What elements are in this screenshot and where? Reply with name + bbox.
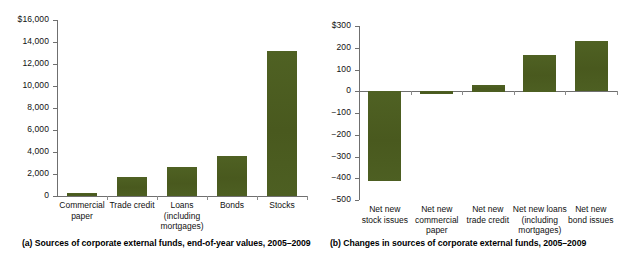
panel-b-y-tick	[355, 91, 359, 92]
panel-b-bar[interactable]	[368, 91, 401, 181]
panel-a-caption: (a) Sources of corporate external funds,…	[22, 238, 311, 249]
panel-a-y-tick-label: 8,000	[0, 103, 49, 112]
panel-a-y-tick-label: 4,000	[0, 147, 49, 156]
panel-a-y-tick	[53, 196, 57, 197]
panel-b-bar[interactable]	[523, 55, 556, 92]
panel-b-y-tick-label: $300	[301, 21, 351, 30]
panel-b-y-axis	[359, 26, 360, 200]
panel-b-y-tick-label: −100	[301, 108, 351, 117]
panel-b-y-tick	[355, 135, 359, 136]
panel-a-bar[interactable]	[117, 177, 147, 196]
panel-b-y-tick-label: −200	[301, 130, 351, 139]
panel-b-y-tick	[355, 48, 359, 49]
panel-b-bar[interactable]	[472, 85, 505, 92]
panel-a-y-tick	[53, 64, 57, 65]
panel-a-y-tick	[53, 42, 57, 43]
panel-b-y-tick	[355, 200, 359, 201]
panel-a-y-tick-label: 6,000	[0, 125, 49, 134]
panel-b-bar[interactable]	[575, 41, 608, 91]
panel-b-y-tick	[355, 178, 359, 179]
panel-a-y-tick	[53, 174, 57, 175]
panel-b-x-tick	[514, 91, 515, 95]
panel-b-y-tick-label: −500	[301, 195, 351, 204]
panel-a-y-tick-label: 10,000	[0, 81, 49, 90]
panel-a-y-tick	[53, 152, 57, 153]
panel-b-y-tick-label: −300	[301, 152, 351, 161]
panel-b-x-tick	[411, 91, 412, 95]
panel-b-category-label: Net newtrade credit	[458, 204, 518, 225]
panel-a-y-tick	[53, 86, 57, 87]
panel-b-y-tick	[355, 26, 359, 27]
panel-b-y-tick-label: 0	[301, 86, 351, 95]
panel-a-y-tick	[53, 130, 57, 131]
panel-b-x-tick	[565, 91, 566, 95]
panel-a-y-tick-label: 14,000	[0, 37, 49, 46]
panel-b-bar[interactable]	[420, 91, 453, 94]
panel-a-bar[interactable]	[67, 193, 97, 196]
panel-a-y-tick-label: 2,000	[0, 169, 49, 178]
panel-a-y-tick	[53, 20, 57, 21]
panel-b-category-label: Net newstock issues	[355, 204, 415, 225]
panel-a-y-tick-label: $16,000	[0, 15, 49, 24]
panel-a-x-axis	[57, 196, 307, 197]
panel-b-y-tick	[355, 113, 359, 114]
panel-a-y-axis	[57, 20, 58, 196]
panel-b-y-tick-label: 100	[301, 65, 351, 74]
panel-b-caption: (b) Changes in sources of corporate exte…	[330, 238, 586, 249]
panel-a-y-tick-label: 0	[0, 191, 49, 200]
panel-b-x-tick	[462, 91, 463, 95]
panel-b-y-tick-label: 200	[301, 43, 351, 52]
panel-a-bar[interactable]	[217, 156, 247, 196]
panel-b-y-tick-label: −400	[301, 173, 351, 182]
panel-a-y-tick	[53, 108, 57, 109]
panel-a-bar[interactable]	[267, 51, 297, 196]
panel-a-sources-of-funds: $16,00014,00012,00010,0008,0006,0004,000…	[0, 0, 317, 255]
panel-b-category-label: Net newbond issues	[561, 204, 621, 225]
panel-a-y-tick-label: 12,000	[0, 59, 49, 68]
figure-container: $16,00014,00012,00010,0008,0006,0004,000…	[0, 0, 635, 255]
panel-b-changes-in-sources: $3002001000−100−200−300−400−500Net newst…	[318, 0, 635, 255]
panel-a-bar[interactable]	[167, 167, 197, 196]
panel-b-y-tick	[355, 157, 359, 158]
panel-b-y-tick	[355, 70, 359, 71]
panel-b-x-tick	[617, 91, 618, 95]
